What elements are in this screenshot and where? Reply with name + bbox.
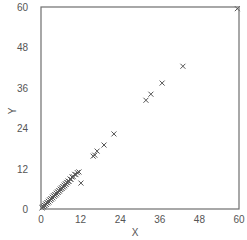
x-tick-label: 48 bbox=[194, 214, 206, 225]
data-point-x-marker bbox=[143, 98, 148, 103]
x-tick-label: 60 bbox=[233, 214, 245, 225]
y-tick-label: 36 bbox=[17, 83, 29, 94]
scatter-chart: 01224364860 01224364860 X Y bbox=[0, 0, 247, 240]
data-point-x-marker bbox=[111, 131, 116, 136]
x-axis-ticks: 01224364860 bbox=[38, 214, 245, 225]
y-tick-label: 48 bbox=[17, 42, 29, 53]
y-tick-label: 24 bbox=[17, 123, 29, 134]
y-axis-label: Y bbox=[7, 107, 18, 114]
data-point-x-marker bbox=[102, 143, 107, 148]
data-markers bbox=[39, 6, 239, 210]
data-point-x-marker bbox=[78, 181, 83, 186]
y-axis-ticks: 01224364860 bbox=[17, 2, 29, 215]
x-tick-label: 0 bbox=[38, 214, 44, 225]
x-tick-label: 24 bbox=[115, 214, 127, 225]
data-point-x-marker bbox=[148, 92, 153, 97]
y-tick-label: 60 bbox=[17, 2, 29, 13]
data-point-x-marker bbox=[160, 81, 165, 86]
x-axis-label: X bbox=[132, 227, 139, 238]
x-tick-label: 12 bbox=[75, 214, 87, 225]
data-point-x-marker bbox=[180, 64, 185, 69]
y-tick-label: 12 bbox=[17, 164, 29, 175]
x-tick-label: 36 bbox=[154, 214, 166, 225]
y-tick-label: 0 bbox=[22, 204, 28, 215]
